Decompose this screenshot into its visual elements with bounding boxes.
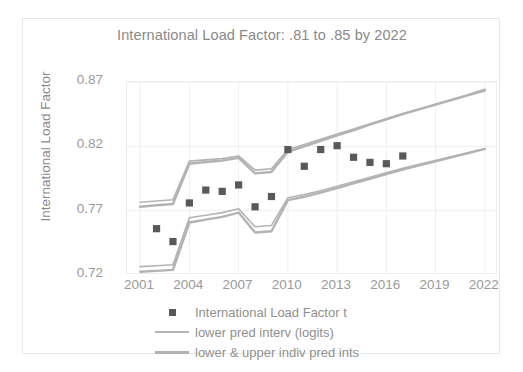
chart-card: International Load Factor: .81 to .85 by… <box>22 18 500 354</box>
chart-legend: International Load Factor tlower pred in… <box>23 302 501 362</box>
legend-item[interactable]: lower pred interv (logits) <box>23 322 501 342</box>
legend-line-thick-icon <box>155 351 189 354</box>
legend-label: lower & upper indiv pred ints <box>195 345 359 360</box>
legend-line-thin-icon <box>155 331 189 333</box>
x-tick-label: 2022 <box>454 277 514 292</box>
legend-item[interactable]: lower & upper indiv pred ints <box>23 342 501 362</box>
legend-label: lower pred interv (logits) <box>195 325 334 340</box>
legend-line-thin-icon <box>153 331 191 333</box>
legend-square-icon <box>153 309 191 316</box>
legend-item[interactable]: International Load Factor t <box>23 302 501 322</box>
legend-line-thick-icon <box>153 351 191 354</box>
legend-label: International Load Factor t <box>195 305 347 320</box>
legend-square-icon <box>169 309 176 316</box>
